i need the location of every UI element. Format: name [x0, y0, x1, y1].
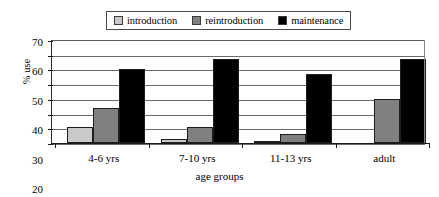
- x-axis-tick-label: 7-10 yrs: [179, 152, 215, 164]
- bar-reintroduction: [280, 134, 306, 143]
- bar-maintenance: [119, 69, 145, 143]
- bar-maintenance: [306, 74, 332, 143]
- legend-entry-reintroduction: reintroduction: [192, 15, 263, 26]
- y-axis-tick: 60: [48, 56, 53, 57]
- plot-area: 706050403020100: [51, 40, 425, 143]
- legend-label-introduction: introduction: [127, 15, 177, 26]
- legend-label-maintenance: maintenance: [291, 15, 343, 26]
- y-axis-tick-label: 70: [32, 37, 43, 48]
- x-axis-tick-label: adult: [373, 152, 395, 164]
- x-axis-line: [51, 143, 429, 144]
- bar-groups: [53, 41, 425, 143]
- bar-chart: introduction reintroduction maintenance …: [0, 0, 439, 197]
- y-axis-tick: 20: [48, 115, 53, 116]
- x-axis-tick: [242, 143, 243, 148]
- chart-legend: introduction reintroduction maintenance: [106, 11, 351, 30]
- y-axis-tick-label: 20: [32, 184, 43, 195]
- y-axis-tick-label: 30: [32, 154, 43, 165]
- legend-entry-maintenance: maintenance: [278, 15, 343, 26]
- legend-swatch-maintenance: [278, 16, 287, 25]
- y-axis-tick: 40: [48, 85, 53, 86]
- x-axis-tick: [55, 143, 56, 148]
- x-axis-tick: [429, 143, 430, 148]
- y-axis-tick: 0: [48, 144, 53, 145]
- x-axis-tick: [149, 143, 150, 148]
- bar-reintroduction: [93, 108, 119, 143]
- x-axis-title: age groups: [0, 170, 439, 182]
- y-axis-tick: 10: [48, 129, 53, 130]
- y-axis-tick-label: 40: [32, 125, 43, 136]
- legend-entry-introduction: introduction: [114, 15, 177, 26]
- bar-reintroduction: [374, 99, 400, 143]
- gridline: [52, 144, 425, 145]
- bar-group: [348, 41, 426, 143]
- y-axis-tick-label: 60: [32, 66, 43, 77]
- x-axis-tick-label: 11-13 yrs: [270, 152, 311, 164]
- plot-right-border: [424, 40, 425, 143]
- legend-label-reintroduction: reintroduction: [205, 15, 263, 26]
- y-axis-title: % use: [21, 42, 32, 102]
- legend-swatch-introduction: [114, 16, 123, 25]
- bar-reintroduction: [187, 127, 213, 143]
- bar-maintenance: [400, 59, 426, 143]
- bar-group: [161, 41, 239, 143]
- legend-swatch-reintroduction: [192, 16, 201, 25]
- y-axis-tick: 30: [48, 100, 53, 101]
- bar-introduction: [67, 127, 93, 143]
- y-axis-tick-label: 50: [32, 95, 43, 106]
- x-axis-tick-label: 4-6 yrs: [88, 152, 119, 164]
- bar-maintenance: [213, 59, 239, 143]
- y-axis-tick: 70: [48, 41, 53, 42]
- bar-group: [67, 41, 145, 143]
- x-axis-tick: [336, 143, 337, 148]
- y-axis-tick: 50: [48, 70, 53, 71]
- bar-group: [254, 41, 332, 143]
